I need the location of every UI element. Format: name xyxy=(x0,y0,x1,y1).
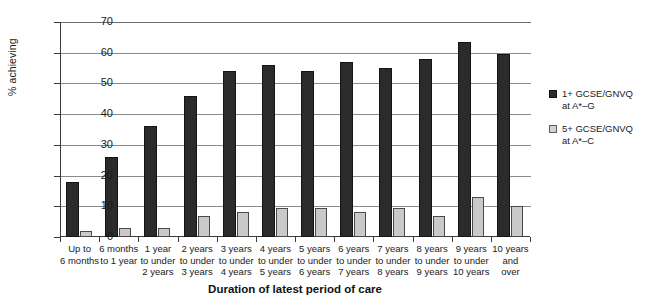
bar xyxy=(315,208,327,237)
x-tick-mark xyxy=(413,237,414,242)
legend: 1+ GCSE/GNVQat A*–G5+ GCSE/GNVQat A*–C xyxy=(549,88,647,158)
legend-item[interactable]: 1+ GCSE/GNVQat A*–G xyxy=(549,88,647,111)
x-tick-mark xyxy=(178,237,179,242)
bar xyxy=(262,65,275,237)
bar xyxy=(158,228,170,237)
y-tick-mark xyxy=(54,53,60,54)
bar-group xyxy=(334,22,373,237)
y-tick-mark xyxy=(54,114,60,115)
bars-layer xyxy=(60,22,530,237)
bar xyxy=(340,62,353,237)
bar-group xyxy=(491,22,530,237)
bar-group xyxy=(138,22,177,237)
y-axis-title: % achieving xyxy=(6,0,18,96)
bar xyxy=(198,216,210,238)
x-tick-mark xyxy=(334,237,335,242)
y-tick-mark xyxy=(54,176,60,177)
x-tick-mark xyxy=(138,237,139,242)
legend-label: 5+ GCSE/GNVQat A*–C xyxy=(562,123,633,146)
x-tick-mark xyxy=(530,237,531,242)
x-tick-mark xyxy=(99,237,100,242)
bar xyxy=(497,54,510,237)
x-tick-mark xyxy=(491,237,492,242)
y-tick-label: 40 xyxy=(67,108,113,119)
x-tick-mark xyxy=(60,237,61,242)
y-tick-mark xyxy=(54,83,60,84)
y-tick-label: 10 xyxy=(67,200,113,211)
legend-swatch-dark-icon xyxy=(549,90,557,98)
bar xyxy=(472,197,484,237)
bar xyxy=(301,71,314,237)
bar-chart: % achieving 010203040506070Up to6 months… xyxy=(0,0,647,305)
bar xyxy=(458,42,471,237)
x-category-label: 10 yearsandover xyxy=(487,243,534,278)
bar xyxy=(419,59,432,237)
bar-group xyxy=(452,22,491,237)
x-tick-mark xyxy=(452,237,453,242)
bar xyxy=(276,208,288,237)
y-tick-label: 0 xyxy=(67,231,113,242)
y-tick-label: 30 xyxy=(67,139,113,150)
legend-item[interactable]: 5+ GCSE/GNVQat A*–C xyxy=(549,123,647,146)
bar xyxy=(119,228,131,237)
bar-group xyxy=(217,22,256,237)
bar xyxy=(393,208,405,237)
y-tick-mark xyxy=(54,145,60,146)
x-axis-title: Duration of latest period of care xyxy=(60,283,530,295)
bar xyxy=(379,68,392,237)
bar-group xyxy=(256,22,295,237)
bar xyxy=(144,126,157,237)
legend-swatch-light-icon xyxy=(549,125,557,133)
x-tick-mark xyxy=(373,237,374,242)
bar xyxy=(223,71,236,237)
x-tick-mark xyxy=(256,237,257,242)
bar-group xyxy=(373,22,412,237)
bar-group xyxy=(178,22,217,237)
x-tick-mark xyxy=(295,237,296,242)
bar-group xyxy=(295,22,334,237)
y-tick-label: 20 xyxy=(67,170,113,181)
y-tick-label: 70 xyxy=(67,16,113,27)
y-tick-label: 50 xyxy=(67,77,113,88)
bar xyxy=(433,216,445,238)
bar xyxy=(511,206,523,237)
y-tick-label: 60 xyxy=(67,47,113,58)
bar xyxy=(354,212,366,237)
bar xyxy=(237,212,249,237)
x-tick-mark xyxy=(217,237,218,242)
y-tick-mark xyxy=(54,22,60,23)
legend-label: 1+ GCSE/GNVQat A*–G xyxy=(562,88,633,111)
y-tick-mark xyxy=(54,206,60,207)
bar xyxy=(184,96,197,237)
bar-group xyxy=(413,22,452,237)
